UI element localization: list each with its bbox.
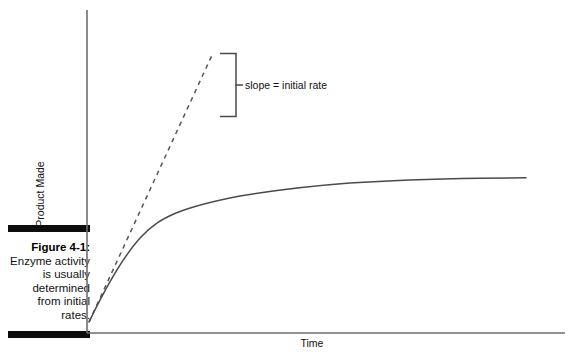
x-axis-title: Time <box>262 337 362 349</box>
product-formation-curve <box>89 178 526 322</box>
plot-svg <box>0 0 582 359</box>
y-axis-title: Product Made <box>34 124 46 264</box>
plot-area: slope = initial rate Product Made Time <box>0 0 582 359</box>
initial-rate-annotation-label: slope = initial rate <box>245 79 327 91</box>
initial-rate-bracket <box>220 54 243 117</box>
initial-rate-tangent-line <box>89 53 213 322</box>
figure-container: Figure 4-1: Enzyme activity is usually d… <box>0 0 582 359</box>
